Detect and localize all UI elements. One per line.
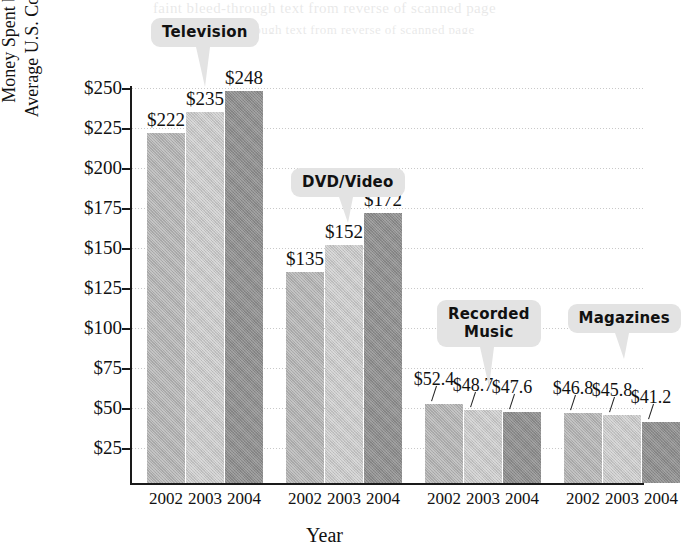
y-axis-tick [122,288,131,290]
bar-fill [564,413,602,483]
callout-tail [339,197,353,223]
y-axis-title: Money Spent by the Average U.S. Consumer [0,0,44,150]
y-axis-tick [122,408,131,410]
x-axis-line [130,483,644,485]
bar[interactable] [147,133,185,483]
bar[interactable] [286,272,324,483]
x-axis-tick-label: 2004 [636,489,685,509]
y-axis-title-line-1: Money Spent by the [0,0,21,150]
y-axis-tick [122,208,131,210]
callout-label-television: Television [151,18,259,47]
bar[interactable] [186,112,224,483]
y-axis-tick [122,328,131,330]
y-axis-tick-label: $150 [42,238,122,257]
y-axis-tick-label: $50 [42,398,122,417]
y-axis-tick-label: $100 [42,318,122,337]
bar[interactable] [464,410,502,483]
bar[interactable] [425,404,463,483]
y-axis-tick-label: $75 [42,358,122,377]
bar-value-label: $41.2 [623,388,679,407]
bar[interactable] [642,422,680,483]
bar-value-label: $248 [219,68,269,87]
y-axis-tick [122,248,131,250]
bar[interactable] [503,412,541,483]
y-axis-tick [122,448,131,450]
bar-value-label: $235 [180,89,230,108]
y-axis-tick [122,368,131,370]
y-axis-tick-label: $125 [42,278,122,297]
y-axis-tick-label: $225 [42,118,122,137]
y-axis-tick-label: $250 [42,78,122,97]
y-axis-tick-label: $175 [42,198,122,217]
callout-label-dvd-video: DVD/Video [291,168,405,197]
y-axis-tick [122,128,131,130]
callout-label-recorded-music: Recorded Music [437,300,541,347]
bar-fill [225,91,263,483]
x-axis-tick-label: 2004 [219,489,269,509]
x-axis-tick-label: 2004 [358,489,408,509]
bar[interactable] [564,413,602,483]
y-axis-tick [122,88,131,90]
bar-fill [147,133,185,483]
bar-fill [325,245,363,483]
bar[interactable] [364,213,402,483]
y-axis-tick-label: $200 [42,158,122,177]
bar-fill [186,112,224,483]
bar-fill [286,272,324,483]
callout-label-magazines: Magazines [568,304,681,333]
y-axis-tick-label: $25 [42,438,122,457]
bar-fill [503,412,541,483]
bar-fill [425,404,463,483]
bar-fill [642,422,680,483]
y-axis-tick [122,168,131,170]
y-axis-title-line-2: Average U.S. Consumer [21,0,44,150]
bar[interactable] [603,415,641,483]
bar-fill [464,410,502,483]
bar-value-label: $152 [319,222,369,241]
bar-value-label: $135 [280,249,330,268]
bar[interactable] [325,245,363,483]
x-axis-title: Year [0,524,649,547]
callout-tail [615,333,629,359]
bar[interactable] [225,91,263,483]
x-axis-tick-label: 2004 [497,489,547,509]
bar-fill [364,213,402,483]
callout-tail [480,347,494,387]
bar-fill [603,415,641,483]
bar-value-label: $222 [141,110,191,129]
callout-tail [196,47,210,87]
